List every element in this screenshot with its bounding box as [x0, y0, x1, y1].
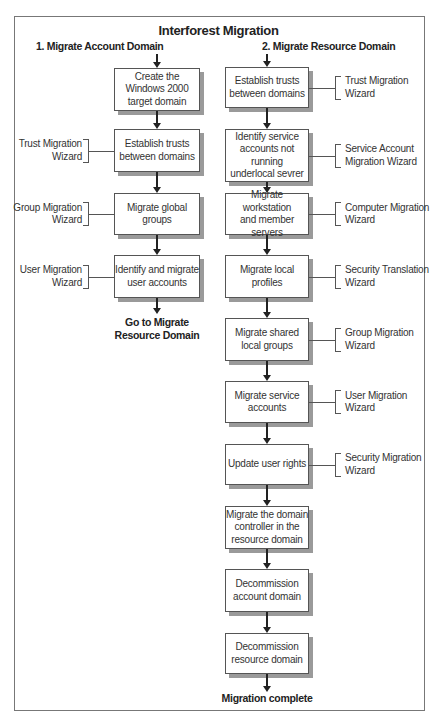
- wizard-bracket-left-2: [83, 139, 89, 163]
- arrow-right-3-line: [266, 235, 268, 250]
- account-domain-heading: 1. Migrate Account Domain: [36, 40, 163, 52]
- account-step-box-3: Migrate global groups: [114, 193, 200, 235]
- resource-step-box-10: Decommissionresource domain: [225, 633, 309, 674]
- wizard-bracket-right-1: [335, 76, 341, 100]
- wizard-bracket-right-5: [335, 328, 341, 352]
- arrow-right-5-line: [266, 361, 268, 376]
- resource-step-box-4: Migrate local profiles: [225, 255, 309, 298]
- wizard-connector-right-5: [309, 340, 335, 341]
- wizard-bracket-left-4: [83, 265, 89, 289]
- go-to-resource-domain-label: Go to MigrateResource Domain: [107, 316, 207, 342]
- wizard-connector-right-1: [309, 88, 335, 89]
- wizard-bracket-left-3: [83, 202, 89, 226]
- wizard-label-right-4: Security TranslationWizard: [345, 264, 429, 289]
- wizard-connector-right-3: [309, 214, 335, 215]
- diagram-frame: [14, 16, 425, 711]
- wizard-label-right-7: Security MigrationWizard: [345, 452, 421, 477]
- wizard-label-right-6: User MigrationWizard: [345, 390, 407, 415]
- arrow-right-1-line: [266, 108, 268, 124]
- wizard-label-right-5: Group MigrationWizard: [345, 327, 414, 352]
- diagram-title: Interforest Migration: [0, 23, 437, 38]
- resource-step-box-1: Establish trustsbetween domains: [225, 67, 309, 108]
- arrow-left-3-line: [156, 235, 158, 250]
- wizard-connector-left-4: [89, 277, 114, 278]
- wizard-label-right-2: Service AccountMigration Wizard: [345, 143, 417, 168]
- wizard-connector-left-3: [89, 214, 114, 215]
- wizard-bracket-right-6: [335, 390, 341, 414]
- resource-step-box-5: Migrate sharedlocal groups: [225, 318, 309, 361]
- account-step-box-4: Identify and migrateuser accounts: [114, 255, 200, 298]
- wizard-label-right-1: Trust MigrationWizard: [345, 75, 408, 100]
- resource-step-box-3: Migrate workstationand member servers: [225, 193, 309, 235]
- wizard-bracket-right-2: [335, 144, 341, 168]
- arrow-right-7-line: [266, 485, 268, 501]
- wizard-bracket-right-4: [335, 265, 341, 289]
- wizard-bracket-right-3: [335, 202, 341, 226]
- wizard-bracket-right-7: [335, 453, 341, 477]
- wizard-connector-right-7: [309, 465, 335, 466]
- resource-step-box-2: Identify serviceaccounts not runningunde…: [225, 129, 309, 182]
- arrow-left-2-line: [156, 172, 158, 188]
- resource-step-box-7: Update user rights: [225, 444, 309, 485]
- resource-step-box-9: Decommissionaccount domain: [225, 569, 309, 612]
- arrow-left-end-arrowhead-icon: [153, 308, 161, 314]
- wizard-connector-left-2: [89, 151, 114, 152]
- account-step-box-1: Create theWindows 2000target domain: [114, 68, 200, 111]
- arrow-right-9-line: [266, 612, 268, 628]
- wizard-label-left-2: Trust MigrationWizard: [19, 138, 82, 163]
- wizard-label-right-3: Computer MigrationWizard: [345, 202, 429, 227]
- wizard-connector-right-2: [309, 156, 335, 157]
- wizard-connector-right-6: [309, 402, 335, 403]
- migration-complete-label: Migration complete: [207, 692, 327, 705]
- wizard-label-left-4: User MigrationWizard: [20, 264, 82, 289]
- wizard-label-left-3: Group MigrationWizard: [13, 202, 82, 227]
- resource-step-box-6: Migrate serviceaccounts: [225, 381, 309, 423]
- resource-step-box-8: Migrate the domaincontroller in theresou…: [225, 506, 309, 549]
- arrow-right-6-line: [266, 423, 268, 439]
- arrow-right-4-line: [266, 298, 268, 313]
- account-step-box-2: Establish trustsbetween domains: [114, 129, 200, 172]
- resource-domain-heading: 2. Migrate Resource Domain: [262, 40, 395, 52]
- wizard-connector-right-4: [309, 277, 335, 278]
- arrow-right-8-line: [266, 549, 268, 564]
